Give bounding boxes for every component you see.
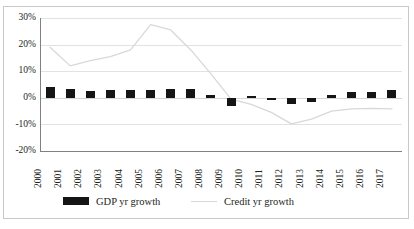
bar-2017 <box>387 90 396 97</box>
legend-label: Credit yr growth <box>224 196 294 207</box>
bar-2009 <box>227 98 236 107</box>
legend-label: GDP yr growth <box>96 196 160 207</box>
bar-2001 <box>66 89 75 98</box>
line-swatch-icon <box>191 197 217 205</box>
bar-2000 <box>46 87 55 98</box>
y-tick-label: -20% <box>2 146 36 156</box>
bar-2004 <box>126 90 135 97</box>
legend-item-credit[interactable]: Credit yr growth <box>191 192 294 210</box>
bar-2013 <box>307 98 316 102</box>
bar-2015 <box>347 92 356 98</box>
bar-2016 <box>367 92 376 98</box>
y-tick-label: 10% <box>2 66 36 76</box>
x-axis: 2000200120022003200420052006200720082009… <box>40 154 402 194</box>
y-tick-label: 30% <box>2 13 36 23</box>
bar-2010 <box>247 96 256 98</box>
y-tick-label: -10% <box>2 120 36 130</box>
bar-2002 <box>86 91 95 98</box>
chart-container: 30% 20% 10% 0% -10% -20% 200020012002200… <box>0 0 414 229</box>
bar-2005 <box>146 90 155 98</box>
x-tick-label-2017: 2017 <box>375 154 409 188</box>
bar-swatch-icon <box>63 197 89 205</box>
x-axis-line <box>40 151 402 152</box>
chart-legend: GDP yr growth Credit yr growth <box>3 192 409 212</box>
bar-2007 <box>186 89 195 98</box>
y-tick-label: 0% <box>2 93 36 103</box>
bar-2006 <box>166 89 175 98</box>
y-tick-label: 20% <box>2 40 36 50</box>
bar-2008 <box>206 95 215 98</box>
bar-2014 <box>327 95 336 98</box>
gdp-bar-series <box>40 18 402 151</box>
y-axis: 30% 20% 10% 0% -10% -20% <box>0 18 36 152</box>
bar-2011 <box>267 98 276 100</box>
bar-2012 <box>287 98 296 104</box>
bar-2003 <box>106 90 115 97</box>
legend-item-gdp[interactable]: GDP yr growth <box>63 192 160 210</box>
